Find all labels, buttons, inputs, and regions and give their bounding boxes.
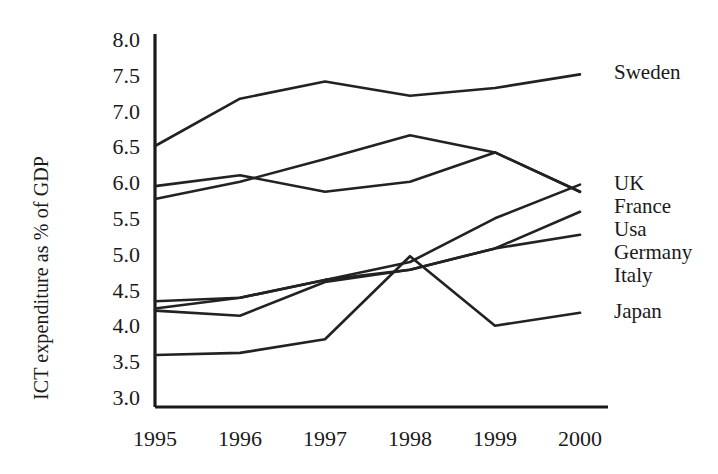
series-lines bbox=[155, 74, 608, 355]
series-line-italy bbox=[155, 235, 580, 301]
series-line-sweden bbox=[155, 74, 580, 146]
series-line-usa bbox=[155, 135, 580, 199]
plot-area bbox=[0, 0, 718, 474]
ict-expenditure-line-chart: ICT expenditure as % of GDP 3.03.54.04.5… bbox=[0, 0, 718, 474]
series-line-uk bbox=[155, 185, 580, 309]
